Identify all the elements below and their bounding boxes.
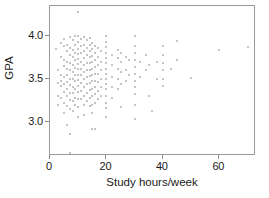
data-point (89, 75, 91, 77)
data-point (77, 58, 79, 60)
y-tick-label: 3.5 (28, 72, 43, 84)
data-point (162, 69, 164, 71)
data-point (60, 56, 62, 58)
data-point (86, 62, 88, 64)
data-point (74, 59, 76, 61)
data-point (80, 74, 82, 76)
data-point (83, 36, 85, 38)
data-point (80, 98, 82, 100)
x-tick-mark (218, 155, 219, 159)
data-point (74, 74, 76, 76)
data-point (72, 49, 74, 51)
data-point (77, 11, 79, 13)
data-point (97, 73, 99, 75)
data-point (77, 35, 79, 37)
data-point (117, 68, 119, 70)
plot-area (49, 5, 255, 155)
data-point (145, 54, 147, 56)
data-point (105, 62, 107, 64)
data-point (63, 59, 65, 61)
x-axis-label: Study hours/week (49, 176, 255, 188)
data-point (91, 48, 93, 50)
data-point (63, 102, 65, 104)
data-point (100, 78, 102, 80)
data-point (63, 65, 65, 67)
data-point (247, 46, 249, 48)
data-point (66, 68, 68, 70)
data-point (69, 92, 71, 94)
data-point (60, 42, 62, 44)
data-point (111, 97, 113, 99)
data-point (77, 91, 79, 93)
data-point (77, 68, 79, 70)
data-points-layer (50, 6, 254, 154)
y-axis-label: GPA (3, 45, 15, 91)
data-point (69, 133, 71, 135)
data-point (91, 74, 93, 76)
data-point (77, 48, 79, 50)
x-tick-label: 0 (46, 160, 52, 172)
data-point (60, 97, 62, 99)
data-point (91, 61, 93, 63)
data-point (91, 42, 93, 44)
data-point (111, 76, 113, 78)
data-point (117, 78, 119, 80)
data-point (111, 54, 113, 56)
data-point (134, 45, 136, 47)
data-point (80, 61, 82, 63)
data-point (80, 90, 82, 92)
y-tick-label: 3.0 (28, 115, 43, 127)
x-tick-label: 20 (100, 160, 112, 172)
data-point (117, 88, 119, 90)
data-point (80, 82, 82, 84)
data-point (66, 105, 68, 107)
x-tick-label: 60 (212, 160, 224, 172)
data-point (148, 95, 150, 97)
data-point (80, 45, 82, 47)
data-point (94, 80, 96, 82)
data-point (77, 53, 79, 55)
data-point (57, 104, 59, 106)
data-point (97, 98, 99, 100)
data-point (105, 52, 107, 54)
data-point (105, 57, 107, 59)
data-point (69, 99, 71, 101)
y-tick-mark (45, 35, 49, 36)
y-tick-mark (45, 78, 49, 79)
data-point (72, 92, 74, 94)
data-point (89, 82, 91, 84)
data-point (100, 86, 102, 88)
data-point (74, 52, 76, 54)
data-point (120, 71, 122, 73)
data-point (69, 54, 71, 56)
data-point (66, 124, 68, 126)
data-point (66, 44, 68, 46)
data-point (125, 80, 127, 82)
data-point (100, 50, 102, 52)
data-point (134, 66, 136, 68)
data-point (125, 69, 127, 71)
data-point (74, 88, 76, 90)
data-point (74, 80, 76, 82)
data-point (91, 128, 93, 130)
data-point (97, 56, 99, 58)
data-point (91, 55, 93, 57)
data-point (72, 56, 74, 58)
data-point (120, 106, 122, 108)
data-point (162, 45, 164, 47)
data-point (83, 64, 85, 66)
data-point (74, 67, 76, 69)
data-point (94, 102, 96, 104)
data-point (74, 44, 76, 46)
data-point (89, 37, 91, 39)
data-point (162, 85, 164, 87)
data-point (105, 116, 107, 118)
data-point (105, 68, 107, 70)
data-point (77, 41, 79, 43)
data-point (89, 50, 91, 52)
data-point (83, 57, 85, 59)
data-point (66, 95, 68, 97)
data-point (190, 77, 192, 79)
data-point (97, 81, 99, 83)
data-point (128, 74, 130, 76)
